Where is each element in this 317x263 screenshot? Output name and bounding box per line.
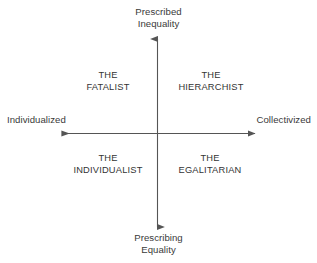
axis-label-left: Individualized xyxy=(7,114,66,126)
quadrant-label-individualist: THEINDIVIDUALIST xyxy=(60,153,156,176)
axis-cross-graphic xyxy=(0,0,317,263)
quadrant-egalitarian-line2: EGALITARIAN xyxy=(164,165,256,177)
axis-label-top: PrescribedInequality xyxy=(0,6,317,29)
quadrant-diagram: PrescribedInequality PrescribingEquality… xyxy=(0,0,317,263)
axis-label-right: Collectivized xyxy=(256,114,311,126)
quadrant-label-egalitarian: THEEGALITARIAN xyxy=(164,153,256,176)
quadrant-label-fatalist: THEFATALIST xyxy=(72,70,144,93)
quadrant-hierarchist-line1: THE xyxy=(168,70,254,82)
axis-label-top-line2: Inequality xyxy=(138,18,180,29)
axis-label-bottom-line2: Equality xyxy=(141,244,176,255)
axis-label-top-line1: Prescribed xyxy=(135,6,181,17)
quadrant-egalitarian-line1: THE xyxy=(164,153,256,165)
axis-label-bottom: PrescribingEquality xyxy=(0,232,317,255)
quadrant-fatalist-line1: THE xyxy=(72,70,144,82)
quadrant-fatalist-line2: FATALIST xyxy=(72,82,144,94)
quadrant-individualist-line2: INDIVIDUALIST xyxy=(60,165,156,177)
quadrant-individualist-line1: THE xyxy=(60,153,156,165)
axis-label-bottom-line1: Prescribing xyxy=(134,232,183,243)
quadrant-hierarchist-line2: HIERARCHIST xyxy=(168,82,254,94)
quadrant-label-hierarchist: THEHIERARCHIST xyxy=(168,70,254,93)
